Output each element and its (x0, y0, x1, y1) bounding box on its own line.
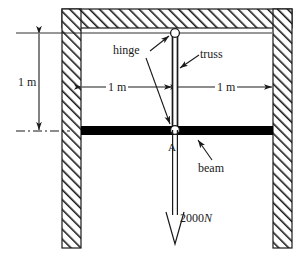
load-label: 2000N (180, 212, 212, 224)
hinge-lower-leader (146, 58, 170, 124)
hinge-label: hinge (113, 44, 140, 56)
truss-member (172, 33, 178, 130)
truss-leader (180, 55, 199, 68)
right-wall (273, 9, 292, 248)
truss-label: truss (200, 48, 223, 60)
diagram-canvas (0, 0, 305, 258)
vertical-dimension-label: 1 m (18, 76, 36, 88)
ceiling-wall (62, 9, 292, 28)
right-span-dimension-label: 1 m (215, 81, 237, 93)
engineering-diagram: hinge truss beam A 1 m 1 m 1 m 2000N (0, 0, 305, 258)
beam-leader (198, 140, 212, 160)
beam-label: beam (198, 162, 224, 174)
left-span-dimension-label: 1 m (106, 81, 128, 93)
bottom-hinge-at-a (171, 126, 180, 135)
left-wall (62, 9, 81, 248)
point-a-label: A (168, 142, 176, 153)
hinge-upper-leader (150, 36, 169, 51)
top-hinge (171, 29, 180, 38)
load-unit: N (204, 211, 212, 225)
load-magnitude: 2000 (180, 211, 204, 225)
